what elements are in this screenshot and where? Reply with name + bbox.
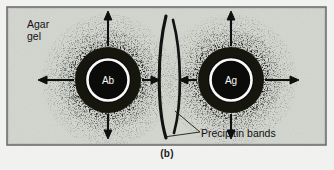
- figure-caption: (b): [0, 148, 334, 159]
- figure-canvas: Ab Ag Agar gel Precipitin bands: [0, 0, 334, 170]
- paper-grain-overlay: [7, 7, 326, 145]
- immunodiffusion-figure: Ab Ag Agar gel Precipitin bands: [0, 0, 334, 170]
